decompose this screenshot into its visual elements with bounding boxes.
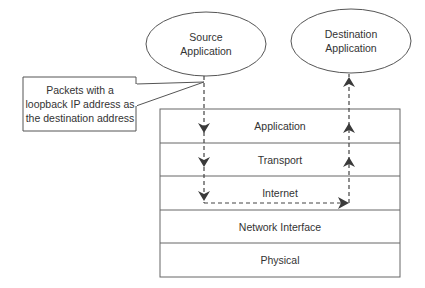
source-application-node: Source Application <box>146 12 266 76</box>
up-arrow-icon <box>343 77 355 87</box>
layer-transport: Transport <box>258 154 303 166</box>
layer-network-interface: Network Interface <box>239 221 321 233</box>
destination-label-line2: Application <box>325 42 377 54</box>
layer-internet: Internet <box>262 187 298 199</box>
destination-application-node: Destination Application <box>291 9 411 73</box>
layer-application: Application <box>254 120 306 132</box>
source-label-line2: Application <box>180 45 232 57</box>
destination-label-line1: Destination <box>325 28 378 40</box>
source-label-line1: Source <box>189 31 222 43</box>
protocol-layer-stack: Application Transport Internet Network I… <box>160 109 400 277</box>
loopback-diagram: Source Application Destination Applicati… <box>0 0 425 288</box>
callout-line3: the destination address <box>26 112 135 124</box>
layer-physical: Physical <box>260 254 299 266</box>
callout-line1: Packets with a <box>46 84 114 96</box>
callout-line2: loopback IP address as <box>26 98 135 110</box>
